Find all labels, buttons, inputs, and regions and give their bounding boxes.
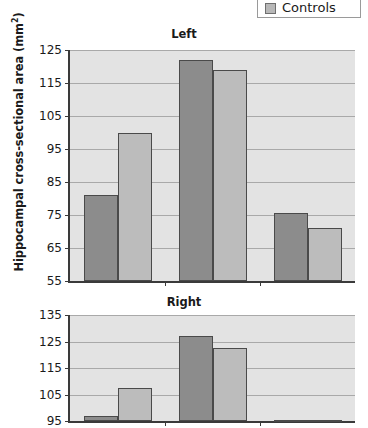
y-axis-tick-label: 75	[47, 209, 62, 221]
y-axis-tick-label: 115	[39, 77, 62, 89]
y-axis-tick	[65, 368, 70, 369]
y-axis-tick-label: 125	[39, 44, 62, 56]
bar-controls	[118, 388, 152, 421]
y-axis-tick	[65, 342, 70, 343]
plot-area-left: 5565758595105115125	[68, 50, 355, 281]
y-axis-tick-label: 85	[47, 176, 62, 188]
y-axis-tick	[65, 182, 70, 183]
bar-controls	[213, 348, 247, 421]
y-axis-tick-label: 55	[47, 275, 62, 287]
y-axis-tick	[65, 83, 70, 84]
bar-patients	[179, 336, 213, 421]
x-axis-tick	[260, 281, 261, 286]
y-axis-tick-label: 135	[39, 309, 62, 321]
y-axis-tick	[65, 215, 70, 216]
x-axis-tick	[165, 281, 166, 286]
gridline	[70, 342, 355, 343]
y-axis-tick	[65, 149, 70, 150]
x-axis-tick	[260, 421, 261, 426]
bar-controls	[118, 133, 152, 282]
x-axis-line	[68, 281, 355, 283]
chart-title-left: Left	[0, 28, 368, 41]
y-axis-tick	[65, 116, 70, 117]
square-swatch-icon	[265, 3, 276, 14]
y-axis-title-superscript: 2	[11, 18, 20, 23]
y-axis-tick-label: 105	[39, 110, 62, 122]
y-axis-title-tail: )	[12, 12, 26, 17]
y-axis-tick-label: 105	[39, 389, 62, 401]
y-axis-tick	[65, 248, 70, 249]
y-axis-tick	[65, 50, 70, 51]
legend-item-label: Controls	[282, 1, 336, 14]
gridline	[70, 50, 355, 51]
chart-legend: Controls	[257, 0, 361, 18]
chart-panel-right: Right 95105115125135	[0, 296, 368, 421]
bar-patients	[274, 420, 308, 422]
bar-patients	[84, 416, 118, 421]
bar-patients	[274, 213, 308, 281]
y-axis-tick-label: 95	[47, 415, 62, 427]
x-axis-tick	[165, 421, 166, 426]
bar-patients	[84, 195, 118, 281]
bar-controls	[308, 420, 342, 422]
plot-area-right: 95105115125135	[68, 315, 355, 421]
y-axis-tick-label: 65	[47, 242, 62, 254]
y-axis-tick	[65, 395, 70, 396]
y-axis-tick	[65, 315, 70, 316]
y-axis-tick-label: 95	[47, 143, 62, 155]
bar-controls	[213, 70, 247, 281]
y-axis-tick-label: 125	[39, 336, 62, 348]
y-axis-tick-label: 115	[39, 362, 62, 374]
gridline	[70, 315, 355, 316]
bar-controls	[308, 228, 342, 281]
chart-panel-left: Left 5565758595105115125	[0, 28, 368, 288]
bar-patients	[179, 60, 213, 281]
